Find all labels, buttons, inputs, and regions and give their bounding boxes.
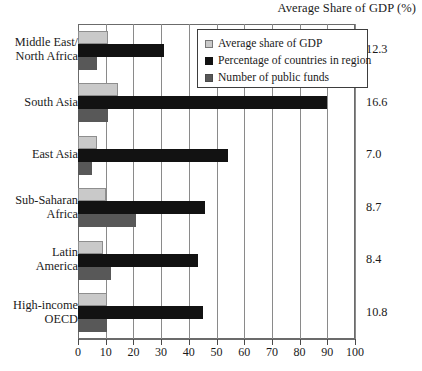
gridline	[189, 24, 190, 339]
bar	[78, 149, 228, 162]
x-tick-label: 10	[100, 345, 112, 360]
legend-swatch-percentage-countries-icon	[205, 57, 213, 65]
bar	[78, 306, 203, 319]
gridline	[161, 24, 162, 339]
bar	[78, 319, 107, 332]
category-label: East Asia	[0, 147, 78, 161]
x-tick-label: 40	[183, 345, 195, 360]
x-tick-label: 60	[238, 345, 250, 360]
bar	[78, 293, 107, 306]
row-value: 16.6	[366, 95, 388, 110]
category-label: High-income OECD	[0, 298, 78, 326]
legend-label: Average share of GDP	[218, 38, 322, 50]
bar	[78, 188, 106, 201]
legend-swatch-average-share-icon	[205, 40, 213, 48]
category-label: South Asia	[0, 95, 78, 109]
gridline	[106, 24, 107, 339]
x-tick-label: 50	[211, 345, 223, 360]
bar	[78, 267, 111, 280]
x-tick-label: 30	[155, 345, 167, 360]
bar	[78, 162, 92, 175]
bar	[78, 31, 108, 44]
x-tick-label: 20	[127, 345, 139, 360]
category-label: Sub-Saharan Africa	[0, 193, 78, 221]
bar	[78, 241, 103, 254]
bar	[78, 254, 198, 267]
legend: Average share of GDP Percentage of count…	[197, 29, 368, 88]
row-value: 7.0	[366, 147, 381, 162]
bar	[78, 96, 327, 109]
x-tick-label: 90	[321, 345, 333, 360]
bar	[78, 57, 97, 70]
bar	[78, 83, 118, 96]
x-tick-label: 70	[266, 345, 278, 360]
x-tick-label: 0	[75, 345, 81, 360]
bar	[78, 201, 205, 214]
bar-chart: Average Share of GDP (%) Middle East/ No…	[0, 0, 422, 371]
x-tick-label: 100	[346, 345, 364, 360]
bar	[78, 136, 97, 149]
category-label: Latin America	[0, 245, 78, 273]
legend-swatch-public-funds-icon	[205, 74, 213, 82]
row-value: 8.7	[366, 200, 381, 215]
bar	[78, 44, 164, 57]
row-value: 10.8	[366, 305, 388, 320]
gridline	[133, 24, 134, 339]
row-value: 8.4	[366, 252, 381, 267]
legend-label: Number of public funds	[218, 72, 329, 84]
legend-label: Percentage of countries in region	[218, 55, 371, 67]
legend-item: Percentage of countries in region	[205, 52, 367, 69]
bar	[78, 109, 108, 122]
legend-item: Average share of GDP	[205, 35, 367, 52]
bar	[78, 214, 136, 227]
legend-item: Number of public funds	[205, 69, 367, 86]
chart-title: Average Share of GDP (%)	[278, 1, 416, 16]
x-tick-label: 80	[294, 345, 306, 360]
category-label: Middle East/ North Africa	[0, 35, 78, 63]
